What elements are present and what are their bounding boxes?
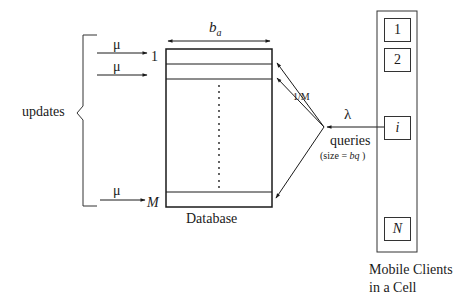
row-last-label: M [147, 196, 159, 210]
update-rate-label-m: μ [113, 184, 121, 198]
row-first-label: 1 [151, 50, 158, 64]
query-probability-label: 1/M [293, 92, 310, 102]
update-rate-label-2: μ [113, 60, 121, 74]
client-box-1: 1 [384, 18, 411, 42]
query-size-suffix: ) [360, 150, 366, 161]
bucket-size-subscript: a [217, 27, 222, 38]
query-size-label: (size = bq ) [320, 151, 365, 161]
client-box-2: 2 [384, 48, 411, 72]
query-arrow-row-m [276, 127, 324, 198]
query-size-var: bq [350, 150, 360, 161]
queries-label: queries [330, 134, 370, 148]
database-box [166, 49, 272, 207]
bucket-size-label: ba [209, 20, 222, 38]
query-rate-label: λ [344, 107, 351, 122]
client-box-i: i [384, 116, 411, 140]
update-rate-label-1: μ [113, 38, 121, 52]
clients-caption-line-2: in a Cell [369, 281, 416, 295]
client-box-n: N [384, 217, 411, 241]
database-label: Database [186, 212, 237, 226]
bucket-size-var: b [209, 19, 217, 35]
query-size-prefix: (size = [320, 150, 350, 161]
updates-label: updates [22, 105, 65, 119]
clients-caption-line-1: Mobile Clients [369, 263, 453, 277]
query-arrow-row-2 [277, 78, 324, 127]
updates-brace [77, 35, 97, 206]
